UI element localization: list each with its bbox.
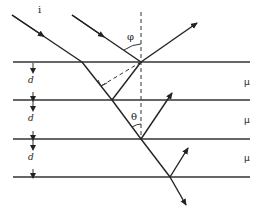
thickness-label-1: d bbox=[28, 76, 34, 85]
angle-phi-label: φ bbox=[127, 32, 134, 42]
thickness-label-2: d bbox=[28, 114, 34, 123]
incident-label: i bbox=[38, 5, 41, 15]
angle-theta-label: θ bbox=[131, 112, 137, 122]
medium-label-3: μ bbox=[244, 154, 250, 163]
medium-label-1: μ bbox=[244, 78, 250, 87]
medium-label-2: μ bbox=[244, 116, 250, 125]
diagram-canvas: i φ θ d d d μ μ μ bbox=[0, 0, 260, 220]
thickness-label-3: d bbox=[28, 153, 34, 162]
